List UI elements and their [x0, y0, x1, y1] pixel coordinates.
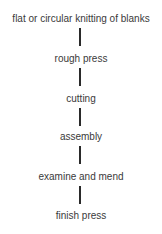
- step-cutting: cutting: [0, 93, 162, 105]
- step-finish-press: finish press: [0, 210, 162, 222]
- connector-line: [79, 28, 81, 46]
- step-rough-press: rough press: [0, 53, 162, 65]
- connector-line: [79, 68, 81, 86]
- step-assembly: assembly: [0, 131, 162, 143]
- step-knitting: flat or circular knitting of blanks: [0, 13, 162, 25]
- step-examine-and-mend: examine and mend: [0, 171, 162, 183]
- connector-line: [79, 108, 81, 126]
- connector-line: [79, 146, 81, 164]
- connector-line: [79, 186, 81, 204]
